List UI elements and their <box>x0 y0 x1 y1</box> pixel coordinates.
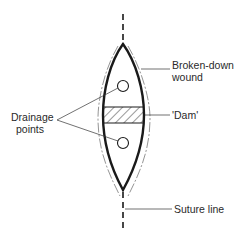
label-drainage-1: Drainage <box>11 111 54 123</box>
dam-hatch <box>103 107 145 123</box>
label-suture-line: Suture line <box>174 203 224 215</box>
label-drainage-2: points <box>16 123 44 135</box>
label-broken-down-1: Broken-down <box>172 59 234 71</box>
drainage-point-upper <box>118 81 129 92</box>
wound-diagram: Broken-down wound 'Dam' Drainage points … <box>0 0 244 237</box>
label-broken-down-2: wound <box>171 71 203 83</box>
label-dam: 'Dam' <box>172 109 198 121</box>
drainage-point-lower <box>118 138 129 149</box>
